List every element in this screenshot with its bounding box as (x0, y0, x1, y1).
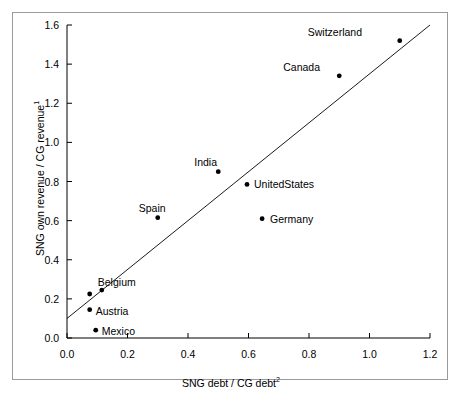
reference-line-path (67, 25, 430, 318)
x-tick-label: 1.0 (350, 349, 390, 360)
data-point-label: Canada (283, 62, 320, 73)
axes (67, 25, 430, 338)
data-point-marker (245, 182, 250, 187)
data-points (87, 38, 402, 332)
data-point-label: Spain (139, 203, 166, 214)
y-tick-label: 0.2 (21, 294, 59, 305)
x-tick-label: 0.4 (168, 349, 208, 360)
y-tick-label: 0.0 (21, 333, 59, 344)
data-point-marker (155, 215, 160, 220)
data-point-label: India (194, 157, 217, 168)
data-point-label: Germany (270, 214, 313, 225)
data-point-marker (337, 73, 342, 78)
scatter-chart (0, 0, 462, 406)
y-axis-title: SNG own revenue / CG revenue1 (34, 101, 45, 256)
reference-line (67, 25, 430, 318)
tick-marks (67, 25, 430, 338)
y-tick-label: 0.4 (21, 255, 59, 266)
y-tick-label: 1.6 (21, 20, 59, 31)
x-tick-label: 0.6 (229, 349, 269, 360)
data-point-label: Switzerland (308, 27, 362, 38)
data-point-label: Austria (96, 306, 129, 317)
y-tick-label: 1.4 (21, 59, 59, 70)
x-tick-label: 0.8 (289, 349, 329, 360)
data-point-marker (260, 216, 265, 221)
data-point-marker (397, 38, 402, 43)
data-point-marker (93, 328, 98, 333)
data-point-marker (99, 288, 104, 293)
x-tick-label: 1.2 (410, 349, 450, 360)
x-tick-label: 0.2 (108, 349, 148, 360)
data-point-marker-unlabeled (87, 292, 92, 297)
x-tick-label: 0.0 (47, 349, 87, 360)
data-point-marker (216, 169, 221, 174)
x-axis-title: SNG debt / CG debt2 (0, 377, 462, 388)
data-point-label: UnitedStates (254, 179, 314, 190)
data-point-marker (87, 307, 92, 312)
data-point-label: Mexico (102, 326, 135, 337)
data-point-label: Belgium (98, 277, 136, 288)
